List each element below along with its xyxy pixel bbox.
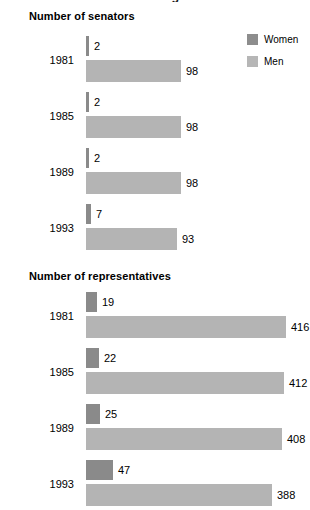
year-label: 1989 — [0, 165, 74, 179]
bar-line-men: 412 — [86, 372, 307, 394]
bar-value-women: 19 — [102, 295, 114, 309]
chart-row: 1985 22 412 — [0, 344, 305, 400]
year-label: 1985 — [0, 109, 74, 123]
chart-row: 1981 19 416 — [0, 288, 305, 344]
bar-men — [86, 428, 282, 450]
year-label: 1993 — [0, 477, 74, 491]
bar-line-men: 93 — [86, 228, 194, 250]
bar-line-women: 2 — [86, 92, 100, 112]
chart-row: 1985 2 98 — [0, 88, 305, 144]
bar-women — [86, 148, 89, 168]
bar-value-men: 412 — [289, 376, 307, 390]
bar-men — [86, 116, 181, 138]
bar-group: 47 388 — [86, 456, 305, 510]
chart-row: 1981 2 98 — [0, 32, 305, 88]
chart-row: 1993 47 388 — [0, 456, 305, 510]
bar-group: 2 98 — [86, 88, 305, 144]
bar-line-women: 2 — [86, 148, 100, 168]
bar-value-men: 98 — [186, 120, 198, 134]
bar-men — [86, 228, 177, 250]
bar-line-men: 408 — [86, 428, 305, 450]
bar-value-women: 2 — [94, 95, 100, 109]
cut-off-document-title: Women and Men in Congress — [26, 0, 276, 2]
bar-line-men: 388 — [86, 484, 295, 506]
section-heading-senators: Number of senators — [29, 10, 135, 22]
chart-row: 1989 2 98 — [0, 144, 305, 200]
bar-group: 22 412 — [86, 344, 305, 400]
chart-panel-senators: 1981 2 98 1985 2 98 1989 — [0, 32, 305, 256]
bar-women — [86, 92, 89, 112]
year-label: 1985 — [0, 365, 74, 379]
bar-line-women: 2 — [86, 36, 100, 56]
bar-line-men: 98 — [86, 172, 198, 194]
bar-group: 7 93 — [86, 200, 305, 256]
bar-women — [86, 404, 100, 424]
bar-men — [86, 172, 181, 194]
bar-group: 2 98 — [86, 32, 305, 88]
bar-women — [86, 460, 113, 480]
bar-men — [86, 372, 284, 394]
year-label: 1989 — [0, 421, 74, 435]
year-label: 1981 — [0, 53, 74, 67]
bar-value-women: 2 — [94, 39, 100, 53]
bar-men — [86, 484, 272, 506]
bar-women — [86, 348, 99, 368]
bar-value-men: 93 — [182, 232, 194, 246]
bar-value-women: 25 — [105, 407, 117, 421]
bar-line-women: 19 — [86, 292, 114, 312]
bar-women — [86, 36, 89, 56]
section-heading-representatives: Number of representatives — [29, 270, 171, 282]
bar-women — [86, 292, 97, 312]
bar-value-women: 22 — [104, 351, 116, 365]
bar-value-men: 416 — [291, 320, 309, 334]
bar-line-women: 25 — [86, 404, 117, 424]
bar-value-women: 47 — [118, 463, 130, 477]
bar-value-men: 408 — [287, 432, 305, 446]
bar-line-women: 22 — [86, 348, 116, 368]
chart-row: 1993 7 93 — [0, 200, 305, 256]
bar-value-men: 388 — [277, 488, 295, 502]
bar-group: 25 408 — [86, 400, 305, 456]
year-label: 1981 — [0, 309, 74, 323]
chart-row: 1989 25 408 — [0, 400, 305, 456]
bar-men — [86, 60, 181, 82]
bar-value-women: 7 — [96, 207, 102, 221]
bar-line-women: 7 — [86, 204, 102, 224]
bar-value-men: 98 — [186, 176, 198, 190]
bar-value-women: 2 — [94, 151, 100, 165]
bar-line-women: 47 — [86, 460, 130, 480]
chart-panel-representatives: 1981 19 416 1985 22 412 1989 — [0, 288, 305, 510]
bar-line-men: 98 — [86, 60, 198, 82]
bar-group: 2 98 — [86, 144, 305, 200]
bar-line-men: 416 — [86, 316, 309, 338]
year-label: 1993 — [0, 221, 74, 235]
bar-group: 19 416 — [86, 288, 305, 344]
bar-men — [86, 316, 286, 338]
bar-women — [86, 204, 91, 224]
bar-line-men: 98 — [86, 116, 198, 138]
bar-value-men: 98 — [186, 64, 198, 78]
